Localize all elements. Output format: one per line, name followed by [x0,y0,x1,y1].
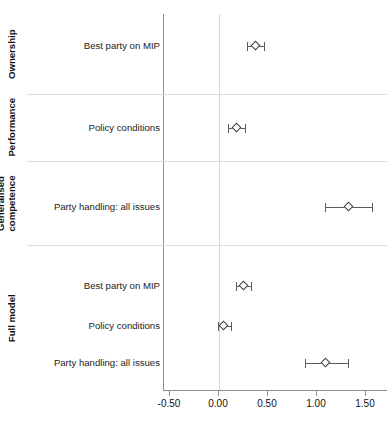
ci-cap-upper [264,42,265,51]
x-tick [365,391,366,396]
confidence-interval [247,38,264,54]
x-tick [169,391,170,396]
row-label: Party handling: all issues [0,199,160,215]
ci-cap-lower [325,203,326,212]
ci-cap-upper [372,203,373,212]
group-label-line: competence [6,143,17,263]
forest-plot-figure: Best party on MIPPolicy conditionsParty … [0,0,392,422]
confidence-interval [236,278,252,294]
row-label: Best party on MIP [0,278,160,294]
estimate-row: Party handling: all issues [0,199,392,215]
confidence-interval [218,318,231,334]
x-tick-label: 1.50 [335,398,392,410]
point-estimate-marker [232,122,242,132]
group-label-generalised-competence: Generalisedcompetence [0,143,17,263]
row-label: Policy conditions [0,120,160,136]
page-running-header [60,1,386,8]
point-estimate-marker [250,40,260,50]
ci-cap-lower [305,359,306,368]
row-label: Policy conditions [0,318,160,334]
point-estimate-marker [219,320,229,330]
ci-cap-upper [231,322,232,331]
estimate-row: Best party on MIP [0,278,392,294]
group-label-line: Full model [7,258,18,378]
confidence-interval [228,120,246,136]
point-estimate-marker [239,280,249,290]
group-separator-1 [27,94,387,95]
ci-cap-lower [247,42,248,51]
estimate-row: Party handling: all issues [0,355,392,371]
estimate-row: Policy conditions [0,318,392,334]
x-tick [316,391,317,396]
x-tick [218,391,219,396]
ci-cap-lower [228,124,229,133]
group-label-full-model: Full model [7,258,18,378]
ci-cap-upper [251,282,252,291]
point-estimate-marker [321,357,331,367]
estimate-row: Policy conditions [0,120,392,136]
ci-cap-upper [348,359,349,368]
group-separator-2 [27,161,387,162]
confidence-interval [305,355,348,371]
ci-cap-lower [236,282,237,291]
row-label: Party handling: all issues [0,355,160,371]
x-tick [267,391,268,396]
group-separator-3 [27,245,387,246]
confidence-interval [325,199,372,215]
ci-cap-upper [245,124,246,133]
point-estimate-marker [343,201,353,211]
row-label: Best party on MIP [0,38,160,54]
estimate-row: Best party on MIP [0,38,392,54]
